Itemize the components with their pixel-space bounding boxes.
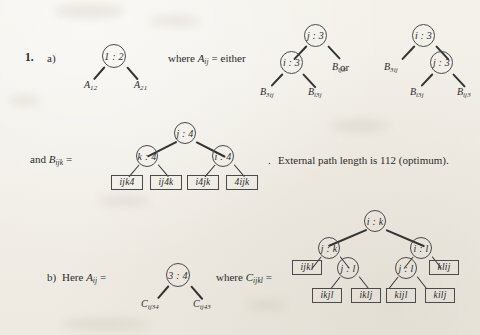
leaf-subscript: ij43: [200, 303, 211, 310]
tree-edge-inner-left: [421, 73, 434, 87]
where-clause-c: where Cijkl =: [216, 272, 272, 285]
tree-node-root: 1 : 2: [102, 44, 126, 68]
equals-sign: =: [266, 271, 272, 283]
or-word: or: [340, 62, 349, 73]
where-word: where: [168, 52, 195, 64]
tree-leaf-box: i4jk: [187, 175, 219, 190]
either-word: either: [221, 52, 246, 64]
here-clause-b: Here Aij =: [62, 272, 106, 285]
tree-node-left-inner: j : l: [337, 257, 359, 279]
tree-edge-inner-left: [271, 73, 284, 87]
scan-smudge: [98, 196, 150, 206]
where-symbol: C: [246, 271, 253, 283]
tree-leaf-box: kijl: [386, 288, 416, 303]
item-number: 1.: [25, 52, 34, 64]
tree-node-root: 3 : 4: [166, 263, 190, 287]
part-a-label: a): [47, 53, 56, 64]
tree-leaf-right: Cij43: [193, 299, 211, 311]
scan-smudge: [246, 300, 286, 310]
tree-leaf-inner-right: Bi3j: [308, 87, 322, 99]
tree-leaf-box-klij: klij: [429, 260, 459, 275]
tree-leaf-box: kilj: [425, 288, 455, 303]
a-symbol: A: [86, 271, 93, 283]
tree-leaf-box: iklj: [351, 288, 381, 303]
tree-node-root: j : 4: [174, 122, 196, 144]
tree-node-inner: i : 3: [280, 51, 303, 74]
tree-edge-left: [93, 66, 105, 80]
tree-node-right: i : 4: [212, 145, 234, 167]
tree-leaf-box: 4ijk: [226, 175, 258, 190]
tree-node-left: j : k: [318, 237, 340, 259]
part-b-label: b): [47, 272, 56, 283]
external-path-note: External path length is 112 (optimum).: [278, 155, 449, 166]
tree-node-inner: j : 3: [430, 51, 453, 74]
leaf-subscript: i3j: [416, 91, 424, 98]
and-clause-b: and Bijk =: [30, 154, 72, 167]
tree-node-root: i : k: [364, 210, 386, 232]
leaf-subscript: ij3: [463, 91, 471, 98]
a-symbol-subscript: ij: [93, 276, 97, 285]
leaf-subscript: 12: [90, 84, 97, 91]
tree-alt1: j : 3 i : 3 Bij3 B3ij Bi3j: [266, 24, 366, 104]
period-after-tree: .: [268, 155, 271, 166]
b-symbol-subscript: ijk: [55, 158, 63, 167]
leaf-subscript: 21: [140, 84, 147, 91]
tree-leaf-box: ijk4: [111, 175, 143, 190]
leaf-subscript: 3ij: [266, 91, 274, 98]
leaf-base: C: [141, 298, 148, 309]
here-word: Here: [62, 271, 83, 283]
where-clause-a: where Aij = either: [168, 53, 246, 66]
tree-leaf-box: ikjl: [312, 288, 342, 303]
tree-node-root: j : 3: [304, 24, 327, 47]
scan-smudge: [10, 96, 40, 105]
scan-smudge: [54, 4, 124, 18]
tree-leaf-inner-left: B3ij: [260, 87, 274, 99]
where-symbol-subscript: ijkl: [253, 276, 263, 285]
tree-edge-root-right: [327, 45, 341, 59]
and-word: and: [30, 153, 46, 165]
leaf-base: C: [193, 298, 200, 309]
tree-node-right: i : l: [410, 237, 432, 259]
tree-node-left: k : 4: [136, 145, 158, 167]
where-symbol-subscript: ij: [204, 57, 208, 66]
scan-smudge: [330, 120, 390, 132]
tree-leaf-root-left: B3ij: [384, 62, 398, 74]
tree-bijk: j : 4 k : 4 i : 4 ijk4 ij4k i4jk 4ijk: [110, 122, 260, 192]
scan-smudge: [150, 16, 200, 26]
where-word: where: [216, 271, 243, 283]
tree-node-root: i : 3: [412, 24, 435, 47]
tree-edge-left: [157, 285, 169, 299]
tree-leaf-left: Cij34: [141, 299, 159, 311]
tree-alt2: i : 3 B3ij j : 3 Bi3j Bij3: [372, 24, 477, 104]
tree-cijkl: i : k j : k i : l ijkl j : l j : l klij …: [290, 210, 470, 322]
equals-sign: =: [66, 153, 72, 165]
leaf-subscript: ij34: [148, 303, 159, 310]
tree-leaf-right: A21: [134, 80, 147, 92]
leaf-subscript: 3ij: [390, 66, 398, 73]
tree-a-main: 1 : 2 A12 A21: [78, 44, 158, 100]
scanned-page: 1. a) 1 : 2 A12 A21 where Aij = either j…: [0, 0, 480, 335]
tree-leaf-box: ij4k: [150, 175, 182, 190]
equals-sign: =: [212, 52, 218, 64]
leaf-subscript: i3j: [314, 91, 322, 98]
tree-leaf-inner-left: Bi3j: [410, 87, 424, 99]
scan-smudge: [60, 318, 150, 330]
tree-leaf-inner-right: Bij3: [457, 87, 471, 99]
tree-edge-root-left: [401, 45, 415, 60]
tree-leaf-left: A12: [84, 80, 97, 92]
equals-sign: =: [100, 271, 106, 283]
tree-leaf-box-ijkl: ijkl: [292, 260, 322, 275]
tree-node-right-inner: j : l: [395, 257, 417, 279]
